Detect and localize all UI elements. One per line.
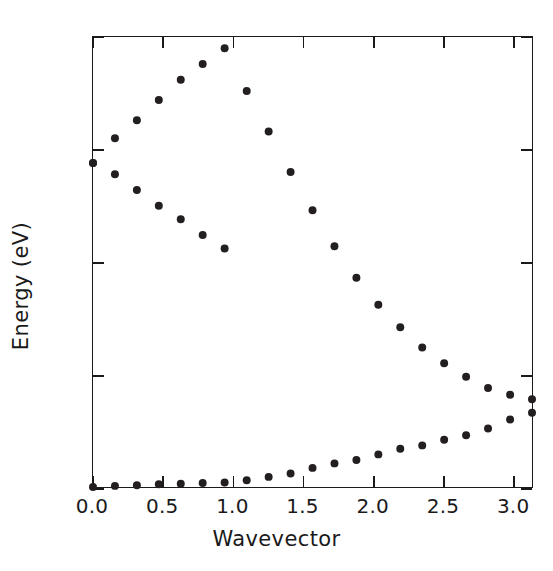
data-point xyxy=(418,441,426,449)
data-point xyxy=(440,359,448,367)
data-point xyxy=(265,128,273,136)
plot-area xyxy=(92,36,533,488)
data-point xyxy=(418,344,426,352)
x-tick-label-1.5: 1.5 xyxy=(286,494,318,518)
x-tick-label-0.0: 0.0 xyxy=(76,494,108,518)
x-tick-label-1.0: 1.0 xyxy=(216,494,248,518)
data-point xyxy=(528,409,536,417)
data-point xyxy=(133,186,141,194)
data-point xyxy=(309,206,317,214)
data-point xyxy=(221,479,229,487)
data-point xyxy=(352,456,360,464)
series-upper-branch xyxy=(89,44,536,403)
data-point xyxy=(177,76,185,84)
y-tick-right-0 xyxy=(521,488,532,490)
series-lower-branch xyxy=(89,409,536,491)
data-point xyxy=(309,464,317,472)
data-point xyxy=(155,202,163,210)
data-point xyxy=(111,134,119,142)
x-axis-label: Wavevector xyxy=(0,527,553,551)
data-point xyxy=(265,473,273,481)
data-point xyxy=(155,480,163,488)
data-point xyxy=(133,116,141,124)
data-points-layer xyxy=(93,37,532,487)
data-point xyxy=(396,445,404,453)
data-point xyxy=(484,425,492,433)
data-point xyxy=(243,476,251,484)
data-point xyxy=(462,373,470,381)
data-point xyxy=(287,470,295,478)
data-point xyxy=(506,391,514,399)
data-point xyxy=(330,242,338,250)
data-point xyxy=(111,170,119,178)
data-point xyxy=(89,483,97,491)
x-tick-label-2.0: 2.0 xyxy=(357,494,389,518)
data-point xyxy=(199,231,207,239)
x-tick-label-0.5: 0.5 xyxy=(146,494,178,518)
data-point xyxy=(177,480,185,488)
y-axis-label-container: Energy (eV) xyxy=(6,0,36,571)
data-point xyxy=(506,416,514,424)
series-optical-descent xyxy=(89,159,229,252)
data-point xyxy=(352,274,360,282)
data-point xyxy=(111,482,119,490)
x-tick-label-2.5: 2.5 xyxy=(427,494,459,518)
data-point xyxy=(330,459,338,467)
data-point xyxy=(221,44,229,52)
y-axis-label: Energy (eV) xyxy=(9,221,33,349)
data-point xyxy=(396,323,404,331)
data-point xyxy=(528,395,536,403)
data-point xyxy=(155,96,163,104)
phonon-dispersion-figure: Energy (eV) 05101520 0.00.51.01.52.02.53… xyxy=(0,0,553,571)
data-point xyxy=(133,481,141,489)
data-point xyxy=(221,245,229,253)
data-point xyxy=(374,450,382,458)
data-point xyxy=(199,60,207,68)
x-tick-label-3.0: 3.0 xyxy=(497,494,529,518)
data-point xyxy=(374,301,382,309)
data-point xyxy=(243,87,251,95)
data-point xyxy=(89,159,97,167)
data-point xyxy=(199,479,207,487)
data-point xyxy=(440,436,448,444)
data-point xyxy=(287,168,295,176)
data-point xyxy=(462,431,470,439)
data-point xyxy=(177,215,185,223)
data-point xyxy=(484,384,492,392)
